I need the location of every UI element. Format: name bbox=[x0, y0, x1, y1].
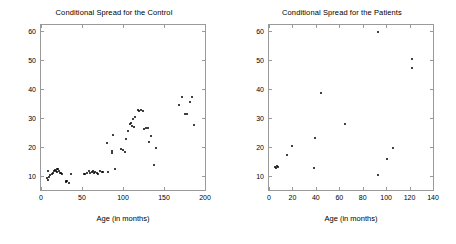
x-tick bbox=[410, 187, 411, 190]
data-point bbox=[102, 171, 104, 173]
data-point bbox=[291, 145, 293, 147]
y-tick bbox=[41, 60, 44, 61]
x-tick-label: 150 bbox=[158, 194, 170, 201]
data-point bbox=[86, 172, 88, 174]
y-tick-label: 10 bbox=[18, 172, 36, 179]
y-tick bbox=[269, 147, 272, 148]
figure-container: Conditional Spread for the Control 05010… bbox=[0, 0, 456, 244]
y-tick-label: 30 bbox=[246, 114, 264, 121]
x-tick-label: 20 bbox=[289, 194, 297, 201]
x-tick-top bbox=[269, 25, 270, 28]
data-point bbox=[178, 104, 180, 106]
x-tick-label: 0 bbox=[39, 194, 43, 201]
y-tick bbox=[269, 176, 272, 177]
x-tick bbox=[433, 187, 434, 190]
data-point bbox=[106, 142, 108, 144]
x-axis-label-patients: Age (in months) bbox=[325, 214, 378, 223]
plot-axes-patients bbox=[268, 24, 434, 191]
data-point bbox=[114, 168, 116, 170]
y-tick-right bbox=[202, 89, 205, 90]
data-point bbox=[189, 101, 191, 103]
y-tick-right bbox=[430, 60, 433, 61]
data-point bbox=[133, 126, 135, 128]
y-tick bbox=[41, 118, 44, 119]
x-tick-top bbox=[386, 25, 387, 28]
y-tick-label: 60 bbox=[246, 27, 264, 34]
x-tick bbox=[363, 187, 364, 190]
x-tick-top bbox=[82, 25, 83, 28]
data-point bbox=[411, 67, 413, 69]
x-tick bbox=[292, 187, 293, 190]
y-tick-label: 40 bbox=[18, 85, 36, 92]
data-point bbox=[47, 170, 49, 172]
y-tick-right bbox=[202, 176, 205, 177]
x-tick-label: 140 bbox=[427, 194, 439, 201]
y-tick-right bbox=[202, 60, 205, 61]
data-point bbox=[411, 58, 413, 60]
x-tick-label: 50 bbox=[78, 194, 86, 201]
x-tick-top bbox=[123, 25, 124, 28]
x-tick-top bbox=[164, 25, 165, 28]
data-point bbox=[148, 141, 150, 143]
x-tick-top bbox=[41, 25, 42, 28]
data-point bbox=[130, 122, 132, 124]
data-point bbox=[132, 118, 134, 120]
y-tick-right bbox=[430, 31, 433, 32]
x-tick-label: 0 bbox=[267, 194, 271, 201]
x-tick-top bbox=[339, 25, 340, 28]
panel-title-control: Conditional Spread for the Control bbox=[0, 8, 228, 17]
y-tick-label: 50 bbox=[18, 56, 36, 63]
data-point bbox=[155, 147, 157, 149]
data-point bbox=[181, 96, 183, 98]
data-point bbox=[47, 179, 49, 181]
y-tick bbox=[41, 89, 44, 90]
y-tick bbox=[269, 89, 272, 90]
x-tick-label: 80 bbox=[359, 194, 367, 201]
data-point bbox=[191, 96, 193, 98]
y-tick-label: 40 bbox=[246, 85, 264, 92]
data-point bbox=[70, 173, 72, 175]
y-tick-label: 20 bbox=[246, 143, 264, 150]
y-tick-right bbox=[202, 118, 205, 119]
y-tick bbox=[41, 31, 44, 32]
y-tick bbox=[41, 176, 44, 177]
data-point bbox=[153, 164, 155, 166]
data-point bbox=[277, 166, 279, 168]
x-tick-top bbox=[410, 25, 411, 28]
x-tick bbox=[316, 187, 317, 190]
data-point bbox=[111, 150, 113, 152]
y-tick bbox=[269, 31, 272, 32]
x-tick-top bbox=[316, 25, 317, 28]
y-tick-label: 60 bbox=[18, 27, 36, 34]
data-point bbox=[52, 172, 54, 174]
data-point bbox=[142, 110, 144, 112]
data-point bbox=[186, 113, 188, 115]
x-tick bbox=[339, 187, 340, 190]
y-tick-label: 10 bbox=[246, 172, 264, 179]
x-tick-label: 100 bbox=[380, 194, 392, 201]
plot-axes-control bbox=[40, 24, 206, 191]
x-tick-top bbox=[205, 25, 206, 28]
panel-control: Conditional Spread for the Control 05010… bbox=[0, 0, 228, 244]
data-point bbox=[386, 158, 388, 160]
x-tick-label: 60 bbox=[335, 194, 343, 201]
data-point bbox=[150, 135, 152, 137]
panel-patients: Conditional Spread for the Patients 0204… bbox=[228, 0, 456, 244]
data-point bbox=[124, 151, 126, 153]
y-tick-right bbox=[430, 176, 433, 177]
data-point bbox=[112, 134, 114, 136]
x-tick-label: 120 bbox=[404, 194, 416, 201]
data-point bbox=[134, 116, 136, 118]
y-tick-label: 20 bbox=[18, 143, 36, 150]
y-tick bbox=[41, 147, 44, 148]
data-point bbox=[125, 138, 127, 140]
data-point bbox=[377, 174, 379, 176]
y-tick-right bbox=[430, 89, 433, 90]
data-point bbox=[48, 176, 50, 178]
x-tick bbox=[123, 187, 124, 190]
panel-title-patients: Conditional Spread for the Patients bbox=[228, 8, 456, 17]
x-tick-label: 40 bbox=[312, 194, 320, 201]
data-point bbox=[68, 182, 70, 184]
data-point bbox=[314, 137, 316, 139]
data-point bbox=[344, 123, 346, 125]
